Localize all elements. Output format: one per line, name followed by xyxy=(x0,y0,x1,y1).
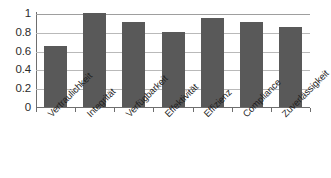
y-tick-label: 0.6 xyxy=(16,46,31,58)
x-axis-category-labels: VertraulichkeitIntegritätVerfügbarkeitEf… xyxy=(36,112,324,178)
y-tick-label: 0.8 xyxy=(16,27,31,39)
y-tick-label: 1 xyxy=(25,8,31,20)
y-tick-label: 0 xyxy=(25,102,31,114)
y-axis-tick-labels: 00.20.40.60.81 xyxy=(0,14,34,108)
y-tick-label: 0.2 xyxy=(16,83,31,95)
y-tick-label: 0.4 xyxy=(16,65,31,77)
